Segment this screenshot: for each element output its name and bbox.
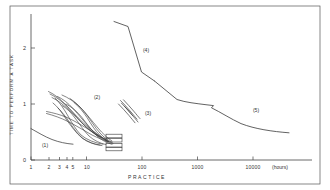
y-axis-ticks bbox=[31, 48, 35, 160]
x-tick-label-4: 4 bbox=[66, 164, 69, 170]
y-tick-label-2: 2 bbox=[23, 45, 26, 51]
curve-group-5 bbox=[155, 81, 290, 133]
figure-border bbox=[10, 6, 320, 184]
curve-group-2 bbox=[47, 92, 114, 146]
curve-2-terminal-boxes bbox=[106, 134, 122, 151]
x-tick-label-5: 5 bbox=[72, 164, 75, 170]
x-tick-label-3: 3 bbox=[58, 164, 61, 170]
x-tick-label-1000: 1000 bbox=[192, 164, 204, 170]
y-tick-label-0: 0 bbox=[23, 157, 26, 163]
curve-label-2: (2) bbox=[94, 94, 100, 100]
x-tick-label-100: 100 bbox=[138, 164, 147, 170]
learning-curve-figure: 0 1 2 1 2 3 4 5 10 100 1000 10000 (hours… bbox=[0, 0, 330, 190]
x-tick-label-1: 1 bbox=[30, 164, 33, 170]
x-tick-label-10: 10 bbox=[84, 164, 90, 170]
chart-canvas bbox=[0, 0, 330, 190]
curve-label-1: (1) bbox=[42, 142, 48, 148]
y-tick-label-1: 1 bbox=[23, 101, 26, 107]
curve-label-4: (4) bbox=[143, 47, 149, 53]
curve-label-3: (3) bbox=[145, 110, 151, 116]
x-tick-label-10000: 10000 bbox=[246, 164, 261, 170]
curve-label-5: (5) bbox=[253, 107, 259, 113]
curve-group-3 bbox=[119, 100, 141, 123]
curve-group-1 bbox=[31, 129, 73, 145]
x-axis-title: PRACTICE bbox=[128, 174, 166, 180]
y-axis-title: TIME TO PERFORM A TASK bbox=[9, 54, 14, 135]
x-tick-label-2: 2 bbox=[48, 164, 51, 170]
x-axis-units-label: (hours) bbox=[272, 164, 288, 170]
x-axis-ticks bbox=[31, 157, 253, 161]
